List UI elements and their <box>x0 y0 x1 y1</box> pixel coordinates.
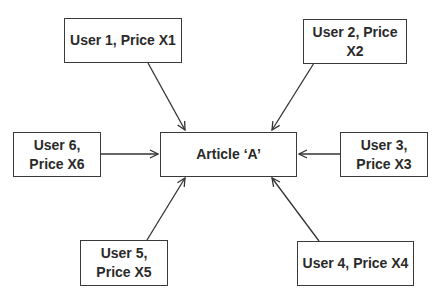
node-user5-label-line1: User 5, <box>96 244 151 263</box>
edge-user1-article <box>148 63 185 130</box>
diagram-canvas: User 1, Price X1 User 2, Price X2 Articl… <box>0 0 437 303</box>
node-user6-label-line1: User 6, <box>29 136 84 155</box>
node-user5: User 5, Price X5 <box>80 240 168 286</box>
node-user1-label: User 1, Price X1 <box>70 31 176 50</box>
node-user4: User 4, Price X4 <box>297 241 414 286</box>
node-user3-label-line1: User 3, <box>356 136 411 155</box>
node-user6-label-line2: Price X6 <box>29 155 84 174</box>
node-user3: User 3, Price X3 <box>340 132 428 177</box>
node-article-label: Article ‘A’ <box>196 145 261 164</box>
node-user5-label-line2: Price X5 <box>96 263 151 282</box>
node-article-center: Article ‘A’ <box>160 132 297 177</box>
node-user4-label: User 4, Price X4 <box>303 254 409 273</box>
node-user2: User 2, Price X2 <box>303 19 407 64</box>
node-user3-label-line2: Price X3 <box>356 155 411 174</box>
node-user6: User 6, Price X6 <box>13 132 101 177</box>
node-user1: User 1, Price X1 <box>64 18 182 63</box>
edge-user4-article <box>272 178 319 241</box>
node-user2-label-line1: User 2, Price <box>313 23 398 42</box>
edge-user5-article <box>147 178 185 240</box>
edge-user2-article <box>272 63 314 130</box>
node-user2-label-line2: X2 <box>313 42 398 61</box>
